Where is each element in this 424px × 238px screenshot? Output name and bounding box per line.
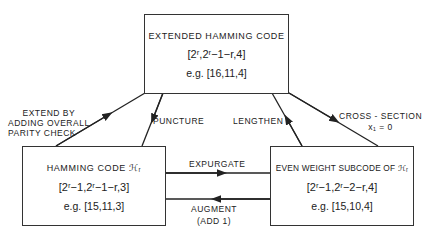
- cross-section-condition: x₁ = 0: [339, 122, 422, 133]
- node-parameters: [2ʳ,2ʳ−1−r,4]: [145, 48, 288, 60]
- even-weight-subcode-node: EVEN WEIGHT SUBCODE OF ℋᵣ [2ʳ−1,2ʳ−2−r,4…: [270, 146, 414, 226]
- extend-label-line: ADDING OVERALL: [8, 118, 90, 128]
- node-title: EXTENDED HAMMING CODE: [145, 31, 288, 41]
- node-title: HAMMING CODE ℋᵣ: [23, 163, 165, 173]
- node-example: e.g. [15,10,4]: [271, 200, 413, 212]
- node-example: e.g. [16,11,4]: [145, 67, 288, 79]
- augment-label: AUGMENT (ADD 1): [191, 203, 237, 227]
- cross-section-label-line: CROSS - SECTION: [339, 111, 422, 122]
- cross-section-label: CROSS - SECTION x₁ = 0: [339, 111, 422, 133]
- extended-hamming-code-node: EXTENDED HAMMING CODE [2ʳ,2ʳ−1−r,4] e.g.…: [144, 14, 289, 94]
- node-parameters: [2ʳ−1,2ʳ−2−r,4]: [271, 181, 413, 193]
- extend-label-line: PARITY CHECK: [8, 128, 90, 138]
- puncture-label: PUNCTURE: [153, 116, 204, 126]
- node-title: EVEN WEIGHT SUBCODE OF ℋᵣ: [271, 163, 413, 173]
- extend-label-line: EXTEND BY: [8, 108, 90, 118]
- node-example: e.g. [15,11,3]: [23, 200, 165, 212]
- hamming-code-node: HAMMING CODE ℋᵣ [2ʳ−1,2ʳ−1−r,3] e.g. [15…: [22, 146, 166, 226]
- expurgate-label: EXPURGATE: [189, 159, 245, 169]
- augment-label-line: AUGMENT: [191, 203, 237, 215]
- node-parameters: [2ʳ−1,2ʳ−1−r,3]: [23, 181, 165, 193]
- extend-label: EXTEND BY ADDING OVERALL PARITY CHECK: [8, 108, 90, 138]
- augment-label-note: (ADD 1): [191, 215, 237, 227]
- lengthen-label: LENGTHEN: [233, 116, 283, 126]
